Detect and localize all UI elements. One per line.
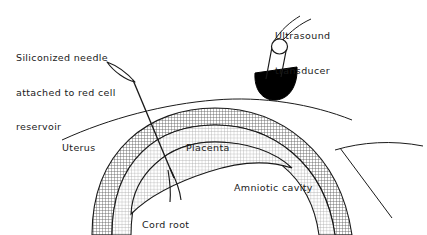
label-needle-line1: Siliconized needle bbox=[16, 52, 116, 64]
label-cord-root-line1: Cord root bbox=[142, 219, 221, 231]
figure-canvas: Siliconized needle attached to red cell … bbox=[0, 0, 427, 235]
label-needle-line3: reservoir bbox=[16, 121, 116, 133]
tissue-plane-line bbox=[340, 148, 392, 218]
label-needle-line2: attached to red cell bbox=[16, 87, 116, 99]
abdominal-wall-line-right bbox=[335, 143, 423, 150]
label-cord-root: Cord root (umbilical vein) bbox=[142, 196, 221, 235]
label-siliconized-needle: Siliconized needle attached to red cell … bbox=[16, 29, 116, 156]
label-ultrasound-transducer: Ultrasound transducer bbox=[275, 7, 330, 99]
label-uterus: Uterus bbox=[62, 142, 96, 154]
label-amniotic-cavity: Amniotic cavity bbox=[234, 182, 313, 194]
label-placenta: Placenta bbox=[186, 142, 230, 154]
label-transducer-line2: transducer bbox=[275, 65, 330, 77]
label-transducer-line1: Ultrasound bbox=[275, 30, 330, 42]
